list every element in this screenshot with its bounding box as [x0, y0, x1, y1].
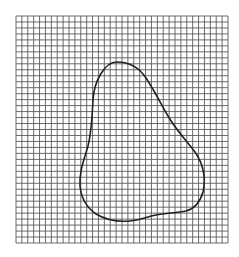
figure-background — [0, 0, 239, 257]
grid-figure — [0, 0, 239, 257]
